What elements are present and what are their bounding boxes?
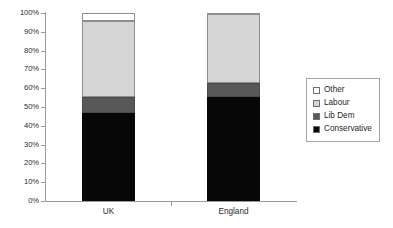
x-axis-label-uk: UK (46, 208, 171, 216)
legend-swatch-lib-dem-icon (313, 113, 320, 120)
legend-label-conservative: Conservative (324, 125, 372, 133)
y-axis-label: 60% (1, 84, 39, 92)
y-axis-tick (41, 51, 45, 52)
bar-column-uk[interactable] (82, 13, 135, 201)
y-axis-label: 20% (1, 159, 39, 167)
y-axis-label: 70% (1, 65, 39, 73)
legend-label-lib-dem: Lib Dem (324, 112, 355, 120)
legend-item-lib-dem[interactable]: Lib Dem (313, 110, 372, 123)
bar-segment-lib-dem[interactable] (82, 97, 135, 113)
legend-swatch-labour-icon (313, 100, 320, 107)
bar-column-england[interactable] (207, 13, 260, 201)
y-axis-tick (41, 32, 45, 33)
legend-swatch-other-icon (313, 87, 320, 94)
y-axis-label: 100% (1, 9, 39, 17)
bar-segment-other[interactable] (207, 13, 260, 15)
legend-swatch-conservative-icon (313, 126, 320, 133)
y-axis-tick (41, 201, 45, 202)
x-axis-tick (171, 202, 172, 206)
x-axis-label-england: England (171, 208, 296, 216)
y-axis-tick (41, 163, 45, 164)
y-axis-tick (41, 145, 45, 146)
y-axis-label: 50% (1, 103, 39, 111)
bar-segment-lib-dem[interactable] (207, 83, 260, 97)
legend-item-conservative[interactable]: Conservative (313, 123, 372, 136)
bar-segment-other[interactable] (82, 13, 135, 21)
legend-label-other: Other (324, 86, 344, 94)
y-axis-tick (41, 126, 45, 127)
y-axis-tick (41, 182, 45, 183)
y-axis-tick (41, 13, 45, 14)
bar-segment-conservative[interactable] (82, 113, 135, 201)
legend-item-other[interactable]: Other (313, 84, 372, 97)
bar-segment-conservative[interactable] (207, 97, 260, 201)
y-axis-label: 30% (1, 141, 39, 149)
chart-legend: Other Labour Lib Dem Conservative (306, 78, 380, 142)
y-axis-label: 90% (1, 28, 39, 36)
legend-item-labour[interactable]: Labour (313, 97, 372, 110)
legend-label-labour: Labour (324, 99, 350, 107)
y-axis-tick (41, 88, 45, 89)
stacked-bar-chart: 0%10%20%30%40%50%60%70%80%90%100% UKEngl… (0, 0, 393, 228)
bar-segment-labour[interactable] (82, 21, 135, 96)
y-axis-tick (41, 69, 45, 70)
y-axis-tick (41, 107, 45, 108)
plot-area (46, 13, 296, 201)
y-axis-label: 80% (1, 47, 39, 55)
y-axis-label: 40% (1, 122, 39, 130)
y-axis-label: 0% (1, 197, 39, 205)
bar-segment-labour[interactable] (207, 14, 260, 83)
y-axis-label: 10% (1, 178, 39, 186)
